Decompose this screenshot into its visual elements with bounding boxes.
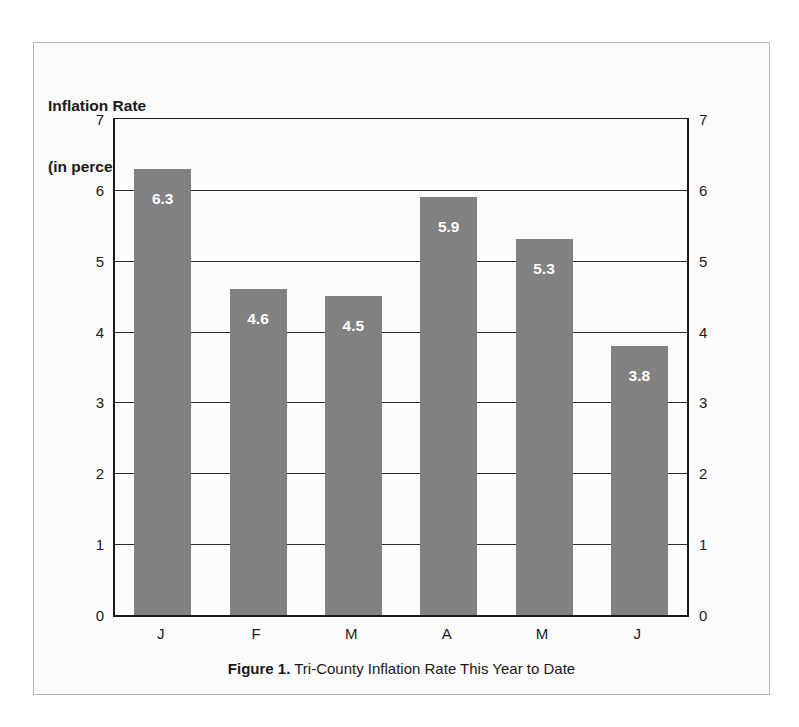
caption-label: Figure 1. xyxy=(228,660,291,677)
bar[interactable]: 5.3 xyxy=(516,239,573,615)
bar-value-label: 4.6 xyxy=(230,311,287,327)
x-category-label: A xyxy=(399,626,494,641)
y-tick-label-right: 0 xyxy=(699,608,707,623)
x-category-label: F xyxy=(208,626,303,641)
y-tick-label-left: 2 xyxy=(96,466,104,481)
y-tick-label-left: 1 xyxy=(96,537,104,552)
y-tick-label-right: 1 xyxy=(699,537,707,552)
y-tick-label-left: 0 xyxy=(96,608,104,623)
bar[interactable]: 4.5 xyxy=(325,296,382,615)
bar-value-label: 5.9 xyxy=(420,219,477,235)
bar-value-label: 3.8 xyxy=(611,368,668,384)
y-tick-label-left: 5 xyxy=(96,254,104,269)
bar[interactable]: 4.6 xyxy=(230,289,287,615)
x-category-label: J xyxy=(590,626,685,641)
caption-text: Tri-County Inflation Rate This Year to D… xyxy=(290,660,575,677)
figure-caption: Figure 1. Tri-County Inflation Rate This… xyxy=(34,660,769,677)
y-tick-label-right: 3 xyxy=(699,395,707,410)
plot-area: 01234567 01234567 6.34.64.55.95.33.8 xyxy=(113,118,689,617)
y-tick-label-left: 6 xyxy=(96,183,104,198)
y-tick-label-right: 7 xyxy=(699,112,707,127)
bar[interactable]: 5.9 xyxy=(420,197,477,615)
bar-value-label: 4.5 xyxy=(325,318,382,334)
bars-layer: 6.34.64.55.95.33.8 xyxy=(115,119,687,615)
x-category-label: M xyxy=(494,626,589,641)
bar-value-label: 6.3 xyxy=(134,191,191,207)
y-tick-label-right: 4 xyxy=(699,325,707,340)
y-tick-label-right: 2 xyxy=(699,466,707,481)
y-tick-label-left: 7 xyxy=(96,112,104,127)
y-tick-label-right: 5 xyxy=(699,254,707,269)
y-tick-label-left: 4 xyxy=(96,325,104,340)
x-category-label: J xyxy=(113,626,208,641)
bar[interactable]: 3.8 xyxy=(611,346,668,615)
y-tick-label-right: 6 xyxy=(699,183,707,198)
bar[interactable]: 6.3 xyxy=(134,169,191,615)
x-category-label: M xyxy=(304,626,399,641)
figure-panel: Inflation Rate (in percent) 01234567 012… xyxy=(33,42,770,695)
bar-value-label: 5.3 xyxy=(516,261,573,277)
y-tick-label-left: 3 xyxy=(96,395,104,410)
